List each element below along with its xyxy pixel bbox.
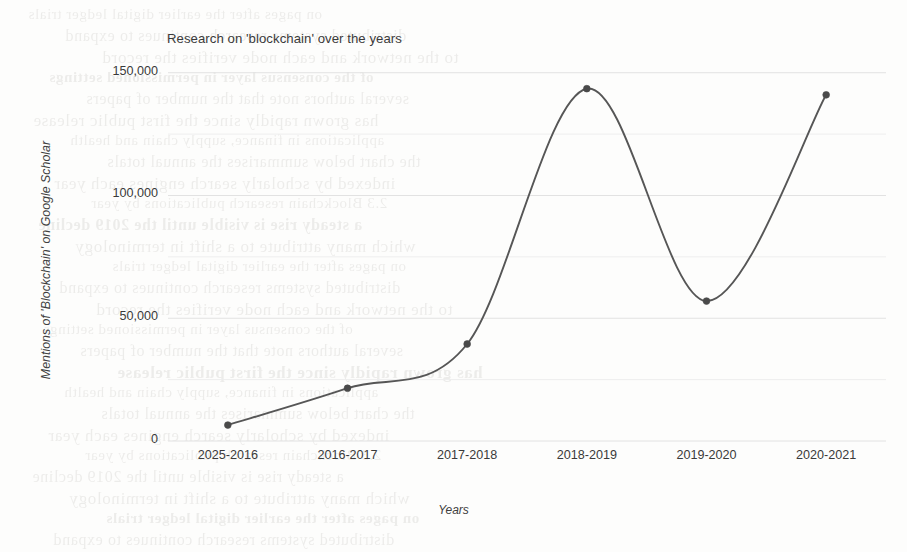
x-axis-title: Years	[0, 503, 907, 517]
y-axis-tick-label: 50,000	[38, 309, 158, 323]
y-axis-tick-label: 0	[38, 432, 158, 446]
scanned-page: on pages after the earlier digital ledge…	[0, 0, 907, 552]
chart-title: Research on 'blockchain' over the years	[167, 31, 402, 46]
y-axis-tick-label: 100,000	[38, 186, 158, 200]
y-axis-tick-label: 150,000	[38, 64, 158, 78]
chart-canvas	[0, 0, 907, 552]
y-axis-title: Mentions of 'Blockchain' on Google Schol…	[39, 110, 53, 410]
line-chart: Research on 'blockchain' over the years …	[0, 0, 907, 552]
x-axis-tick-label: 2020-2021	[756, 448, 896, 462]
minor-gridlines	[168, 134, 886, 380]
